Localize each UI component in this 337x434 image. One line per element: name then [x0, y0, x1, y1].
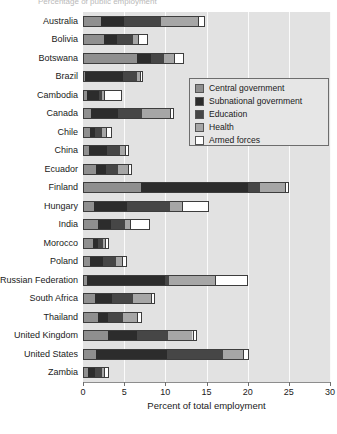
legend-swatch-icon	[195, 136, 204, 145]
bar-segment	[118, 164, 128, 175]
bar-segment	[87, 90, 99, 101]
country-label: Brazil	[0, 68, 78, 85]
bar-segment	[137, 330, 168, 341]
bar-segment	[83, 293, 95, 304]
legend: Central governmentSubnational government…	[189, 78, 329, 146]
country-label: Zambia	[0, 364, 78, 381]
bar-segment	[170, 108, 173, 119]
country-label: Bolivia	[0, 31, 78, 48]
country-label: Hungary	[0, 198, 78, 215]
bar-row: United States	[0, 346, 337, 363]
bar-segment	[223, 349, 243, 360]
x-tick-mark	[330, 382, 331, 386]
bar-segment	[106, 127, 112, 138]
x-tick-mark	[83, 382, 84, 386]
bar-segment	[151, 53, 163, 64]
bar-segment	[170, 201, 182, 212]
bar-segment	[83, 34, 104, 45]
bar-segment	[198, 16, 205, 27]
country-label: Morocco	[0, 235, 78, 252]
bar-segment	[243, 349, 250, 360]
bar-segment	[169, 275, 214, 286]
bar-segment	[128, 164, 132, 175]
bar-row: India	[0, 216, 337, 233]
bar-row: Poland	[0, 253, 337, 270]
bar-segment	[83, 312, 98, 323]
legend-swatch-icon	[195, 110, 204, 119]
country-label: Thailand	[0, 309, 78, 326]
bar-segment	[122, 256, 128, 267]
country-label: China	[0, 142, 78, 159]
bar-segment	[83, 182, 141, 193]
bar-segment	[164, 53, 174, 64]
bar-segment	[96, 349, 167, 360]
legend-swatch-icon	[195, 123, 204, 132]
country-label: United States	[0, 346, 78, 363]
bar-segment	[104, 34, 116, 45]
bar-segment	[90, 256, 103, 267]
x-tick-label: 30	[317, 387, 337, 397]
country-label: Chile	[0, 124, 78, 141]
bar-segment	[104, 90, 121, 101]
country-label: India	[0, 216, 78, 233]
bar-segment	[88, 367, 95, 378]
bar-segment	[104, 367, 108, 378]
chart-root: Percentage of public employment 05101520…	[0, 0, 337, 434]
bar-row: South Africa	[0, 290, 337, 307]
country-label: Poland	[0, 253, 78, 270]
country-label: Ecuador	[0, 161, 78, 178]
bar-segment	[123, 71, 136, 82]
bar-segment	[125, 145, 129, 156]
bar-segment	[130, 219, 150, 230]
bar-row: Botswana	[0, 50, 337, 67]
bar-segment	[174, 53, 185, 64]
bar-segment	[123, 312, 138, 323]
bar-segment	[108, 312, 123, 323]
bar-segment	[101, 16, 124, 27]
legend-label: Central government	[209, 82, 284, 95]
bar-segment	[167, 349, 223, 360]
bar-segment	[95, 367, 102, 378]
x-tick-label: 5	[111, 387, 137, 397]
bar-segment	[105, 238, 108, 249]
bar-segment	[215, 275, 248, 286]
x-tick-mark	[289, 382, 290, 386]
bar-segment	[285, 182, 289, 193]
bar-segment	[83, 256, 90, 267]
country-label: Botswana	[0, 50, 78, 67]
bar-segment	[151, 293, 155, 304]
country-label: Australia	[0, 13, 78, 30]
country-label: South Africa	[0, 290, 78, 307]
x-tick-label: 20	[235, 387, 261, 397]
x-tick-label: 10	[152, 387, 178, 397]
bar-segment	[83, 16, 101, 27]
bar-segment	[95, 293, 111, 304]
bar-segment	[98, 219, 111, 230]
x-tick-label: 25	[276, 387, 302, 397]
bar-segment	[140, 71, 143, 82]
bar-segment	[85, 71, 123, 82]
legend-label: Armed forces	[209, 134, 260, 147]
bar-segment	[260, 182, 285, 193]
bar-segment	[83, 164, 96, 175]
country-label: United Kingdom	[0, 327, 78, 344]
country-label: Canada	[0, 105, 78, 122]
legend-label: Health	[209, 121, 234, 134]
bar-row: Zambia	[0, 364, 337, 381]
bar-segment	[141, 182, 248, 193]
bar-segment	[111, 219, 125, 230]
clipped-title-text: Percentage of public employment	[38, 0, 157, 6]
clipped-title-strip: Percentage of public employment	[0, 0, 337, 9]
bar-row: Russian Federation	[0, 272, 337, 289]
bar-segment	[89, 145, 107, 156]
x-axis-title: Percent of total employment	[83, 400, 330, 411]
bar-segment	[248, 182, 260, 193]
bar-segment	[83, 349, 96, 360]
bar-segment	[107, 145, 120, 156]
bar-segment	[117, 34, 133, 45]
bar-row: Ecuador	[0, 161, 337, 178]
bar-segment	[106, 164, 118, 175]
bar-segment	[161, 16, 198, 27]
bar-row: Finland	[0, 179, 337, 196]
bar-segment	[182, 201, 209, 212]
